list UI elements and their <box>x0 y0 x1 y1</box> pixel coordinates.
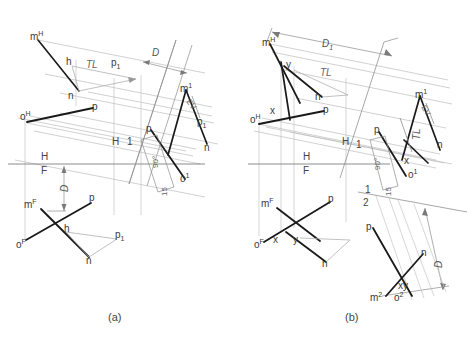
panel-b-vertical-construction <box>259 60 346 236</box>
panel-b-oh-p-line <box>259 111 324 124</box>
panel-a-label-m-1: m1 <box>180 82 192 94</box>
panel-a-label-o-f: oF <box>16 238 26 250</box>
panel-b-label-x-right: x <box>404 156 409 166</box>
panel-b-label-dim-d2: D <box>434 261 444 268</box>
panel-b-label-m-h: mH <box>262 36 275 48</box>
descriptive-geometry-figure: mH h TL n p1 D m1 EV p1 n oH p p H 1 H F… <box>0 0 467 342</box>
panel-a-label-dim-d-left: D <box>60 185 70 192</box>
panel-a-label-dim-15: 15 <box>161 187 169 196</box>
panel-b-label-y-top: y <box>286 60 291 70</box>
panel-b-label-n-f: n <box>322 259 328 269</box>
panel-b-label-o-2: o2 <box>394 291 403 303</box>
panel-a-label-o-1: o1 <box>180 172 189 184</box>
panel-b-label-m-2: m2 <box>370 291 382 303</box>
panel-b-label-1-fold: 1 <box>365 185 371 195</box>
panel-b-caption: (b) <box>345 312 358 323</box>
panel-a-label-h-bottom: h <box>64 224 70 234</box>
panel-b-label-p-f: p <box>328 194 334 204</box>
panel-a-label-angle-90: 90° <box>152 156 160 168</box>
panel-b-label-y-bottom: y <box>293 235 298 245</box>
panel-b-label-n-2: n <box>421 248 427 258</box>
panel-b-label-dim-15: 15 <box>385 187 393 196</box>
panel-a-label-n-top: n <box>68 91 74 101</box>
panel-b-aux2-construction <box>376 196 446 300</box>
panel-b-label-p-2: p <box>366 222 372 232</box>
panel-b-label-h1-right: 1 <box>356 140 362 150</box>
panel-a-vertical-construction <box>25 60 141 240</box>
panel-a-label-n-bottom: n <box>86 256 92 266</box>
panel-b-label-o-h: oH <box>250 113 261 125</box>
panel-a-label-f-fold: F <box>41 166 47 176</box>
panel-b-upper-left-lines <box>270 44 322 120</box>
panel-a-oh-p-line <box>27 108 93 122</box>
panel-b-label-f-fold: F <box>303 166 309 176</box>
panel-b-front-view-lines <box>264 202 330 262</box>
panel-b-label-o-f: oF <box>254 238 264 250</box>
panel-a-label-o-h: oH <box>20 110 31 122</box>
panel-b-label-n-1: n <box>437 140 443 150</box>
panel-b-label-xy-aux: xy <box>398 281 408 291</box>
panel-a-label-p1-top: p1 <box>111 58 120 70</box>
panel-b-label-tl-right: TL <box>412 128 422 140</box>
panel-b-label-x-bottom: x <box>273 235 278 245</box>
panel-b-12-fold-line <box>358 192 467 212</box>
panel-a-label-h-fold: H <box>41 152 48 162</box>
panel-a-label-p1-right: p1 <box>197 117 206 129</box>
panel-b-label-o-1: o1 <box>408 168 417 180</box>
panel-b-label-x-top: x <box>270 106 275 116</box>
panel-b-label-tl-top: TL <box>320 68 332 78</box>
panel-b-label-angle-90: 90° <box>374 158 382 170</box>
panel-b-dimension-d2 <box>382 208 449 296</box>
panel-a-caption: (a) <box>108 312 121 323</box>
panel-a-label-p-bottom: p <box>89 193 95 203</box>
panel-a-label-h-top: h <box>66 57 72 67</box>
panel-b-label-m-1: m1 <box>415 88 427 100</box>
panel-a-label-m-f: mF <box>24 198 37 210</box>
panel-b-label-p-h: p <box>323 105 329 115</box>
panel-b-label-h1-left: H <box>342 137 349 147</box>
panel-a-label-m-h: mH <box>30 30 43 42</box>
panel-a-label-h1-right: 1 <box>127 137 133 147</box>
panel-a-label-p-right: p <box>146 124 152 134</box>
panel-b-label-dim-d1: D1 <box>322 39 333 51</box>
panel-a-label-dim-d-top: D <box>152 48 159 58</box>
panel-a-label-h1-left: H <box>112 137 119 147</box>
panel-b-label-h-fold: H <box>303 152 310 162</box>
panel-b-label-2-fold: 2 <box>363 198 369 208</box>
panel-b-label-m-f: mF <box>261 197 274 209</box>
panel-a-label-tl: TL <box>86 60 98 70</box>
panel-b-label-p-1: p <box>374 125 380 135</box>
panel-a-upper-left-lines <box>38 40 79 91</box>
panel-b-label-n-h: n <box>315 92 321 102</box>
panel-a-label-n-right: n <box>204 143 210 153</box>
panel-a-label-p1-bottom: p1 <box>115 230 124 242</box>
panel-a-label-p-mid: p <box>92 102 98 112</box>
panel-a-tl-triangle <box>72 66 136 91</box>
panel-a-front-view-construction <box>66 232 117 257</box>
